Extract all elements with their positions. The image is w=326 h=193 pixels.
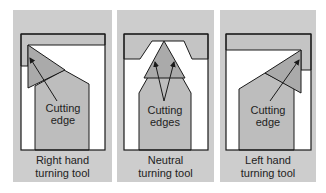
annotation-line1: Cutting: [141, 104, 189, 116]
annotation-line2: edges: [141, 116, 189, 128]
caption-line1: Left hand: [220, 154, 316, 167]
caption-left-hand: Left hand turning tool: [220, 154, 316, 180]
cutting-edge-label-right-hand: Cutting edge: [40, 102, 86, 126]
cutting-edge-label-left-hand: Cutting edge: [244, 104, 292, 128]
cutting-edges-label-neutral: Cutting edges: [141, 104, 189, 128]
caption-line2: turning tool: [117, 167, 214, 180]
annotation-line1: Cutting: [244, 104, 292, 116]
annotation-line2: edge: [244, 116, 292, 128]
caption-right-hand: Right hand turning tool: [13, 154, 112, 180]
caption-neutral: Neutral turning tool: [117, 154, 214, 180]
caption-line2: turning tool: [220, 167, 316, 180]
caption-line1: Right hand: [13, 154, 112, 167]
right-hand-tool-drawing: [21, 34, 105, 150]
neutral-tool-drawing: [124, 34, 208, 150]
caption-line2: turning tool: [13, 167, 112, 180]
annotation-line2: edge: [40, 114, 86, 126]
left-hand-tool-drawing: [226, 34, 311, 150]
annotation-line1: Cutting: [40, 102, 86, 114]
caption-line1: Neutral: [117, 154, 214, 167]
